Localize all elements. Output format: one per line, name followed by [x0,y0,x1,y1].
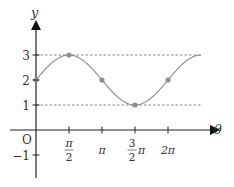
axes [10,22,218,178]
sine-curve [36,55,201,105]
y-tick-label: −1 [12,149,30,163]
x-tick-label: π [97,144,106,157]
x-tick-label-denominator: 2 [129,151,136,164]
y-tick-label: 1 [22,99,30,113]
origin-label: O [22,133,32,147]
y-tick-label: 3 [22,49,30,63]
data-point [132,102,137,107]
data-point [165,77,170,82]
chart: π2π32π2π321−1 θ y O [0,0,234,187]
x-tick-label-suffix: π [137,144,146,157]
x-axis-label: θ [214,122,222,137]
data-point [99,77,104,82]
curve-path [36,55,201,105]
y-tick-label: 2 [22,74,30,88]
data-point [66,52,71,57]
tick-labels: π2π32π2π321−1 [12,49,176,165]
y-axis-label: y [30,5,39,20]
x-tick-label-numerator: π [64,137,73,150]
x-tick-label-numerator: 3 [129,137,136,150]
x-tick-label-denominator: 2 [66,151,73,164]
x-tick-label: 2π [160,144,176,157]
